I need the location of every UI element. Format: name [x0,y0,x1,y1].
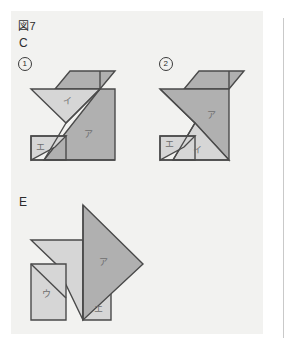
figureE-label-e: エ [94,304,103,314]
page-root: 図7 C 1 2 E ア イ エ [0,0,296,349]
figure2-label-e: エ [165,139,174,149]
figure1-label-i: イ [63,96,72,106]
figure1-label-a: ア [84,129,93,139]
figure1-label-e: エ [36,142,45,152]
figureE-label-u: ウ [42,289,51,299]
figure2-label-a: ア [207,110,216,120]
figure-c-2-group: ア イ エ [160,71,244,160]
figure-e-group: ア ウ エ [31,205,143,320]
figureE-piece-a-dark [83,205,143,320]
figure-c-1-group: ア イ エ [31,71,115,160]
figure1-dark-parallelogram [55,71,115,89]
tangram-artwork: ア イ エ ア イ エ [0,0,296,349]
figureE-label-a: ア [99,257,108,267]
figure2-label-i: イ [193,145,202,155]
figure2-dark-parallelogram [184,71,244,89]
